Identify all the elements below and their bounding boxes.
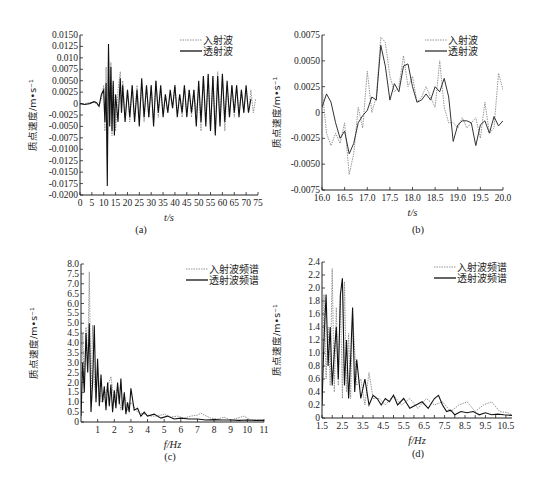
legend-label: 入射波频谱 <box>457 261 507 273</box>
x-axis-title: t/s <box>408 207 418 218</box>
x-tick-label: 7.5 <box>439 421 451 431</box>
x-tick-label: 65 <box>230 198 240 208</box>
x-tick-label: 16.0 <box>314 193 331 203</box>
x-tick-label: 6 <box>178 425 183 435</box>
chart-d-svg: 2.42.22.01.81.61.41.21.00.80.60.40.201.5… <box>268 240 537 489</box>
chart-panel-b: 0.00750.00500.00250-0.0025-0.0050-0.0075… <box>268 0 537 240</box>
y-tick-label: 0 <box>74 417 79 427</box>
chart-d-caption: (d) <box>412 448 425 460</box>
y-tick-label: 0.010 <box>57 53 79 63</box>
x-tick-label: 30 <box>146 198 156 208</box>
legend-label: 透射波 <box>203 45 233 57</box>
x-tick-label: 0 <box>78 198 83 208</box>
y-axis-title: 质点速度/m•s⁻¹ <box>271 304 282 376</box>
x-tick-label: 20.0 <box>495 193 512 203</box>
y-tick-label: 0.4 <box>308 387 320 397</box>
x-tick-label: 60 <box>218 198 228 208</box>
x-tick-label: 5 <box>162 425 167 435</box>
x-tick-label: 16.5 <box>336 193 353 203</box>
y-tick-label: 0.0150 <box>52 30 78 40</box>
legend-label: 入射波频谱 <box>209 263 259 275</box>
x-tick-label: 25 <box>135 198 145 208</box>
y-tick-label: 5.5 <box>67 308 79 318</box>
y-tick-label: 1.0 <box>67 397 79 407</box>
y-tick-label: 1.5 <box>67 387 79 397</box>
y-tick-label: 0 <box>73 99 78 109</box>
x-tick-label: 1 <box>95 425 100 435</box>
y-tick-label: 0.0025 <box>294 82 320 92</box>
x-tick-label: 75 <box>253 198 263 208</box>
legend-label: 透射波 <box>448 45 478 57</box>
y-tick-label: 8.0 <box>67 259 79 269</box>
y-tick-label: 2.0 <box>308 283 320 293</box>
x-tick-label: 18.5 <box>427 193 444 203</box>
chart-b-plot: 0.00750.00500.00250-0.0025-0.0050-0.0075… <box>271 30 512 218</box>
x-tick-label: 40 <box>170 198 180 208</box>
y-tick-label: 3.0 <box>67 358 79 368</box>
y-tick-label: 0.8 <box>308 361 320 371</box>
chart-a-svg: 0.01500.01250.0100.00750.00500.00250-0.0… <box>0 0 268 240</box>
y-tick-label: 0.0050 <box>294 56 320 66</box>
legend-label: 透射波频谱 <box>457 272 507 284</box>
chart-c-caption: (c) <box>164 451 176 463</box>
x-tick-label: 4 <box>145 425 150 435</box>
y-tick-label: 4.5 <box>67 328 79 338</box>
y-tick-label: 6.0 <box>67 299 79 309</box>
y-tick-label: 0 <box>315 108 320 118</box>
x-tick-label: 45 <box>182 198 192 208</box>
y-tick-label: 0.6 <box>308 374 320 384</box>
y-tick-label: 0.0075 <box>294 30 320 40</box>
y-tick-label: 0.0050 <box>52 76 78 86</box>
series-line-transmitted <box>322 45 503 154</box>
x-tick-label: 7 <box>195 425 200 435</box>
y-tick-label: 7.5 <box>67 269 79 279</box>
series-line-transmitted <box>81 323 264 420</box>
x-tick-label: 17.0 <box>359 193 376 203</box>
x-tick-label: 50 <box>194 198 204 208</box>
x-axis-title: f/Hz <box>164 439 182 450</box>
x-tick-label: 3.5 <box>357 421 369 431</box>
chart-b-svg: 0.00750.00500.00250-0.0025-0.0050-0.0075… <box>268 0 537 240</box>
y-tick-label: -0.0100 <box>49 144 79 154</box>
y-tick-label: 2.4 <box>308 257 320 267</box>
x-tick-label: 15 <box>111 198 121 208</box>
y-tick-label: -0.0150 <box>49 167 79 177</box>
y-tick-label: 1.2 <box>308 335 320 345</box>
y-tick-label: 6.5 <box>67 289 79 299</box>
y-tick-label: 2.2 <box>308 270 320 280</box>
chart-panel-a: 0.01500.01250.0100.00750.00500.00250-0.0… <box>0 0 268 240</box>
y-tick-label: 7.0 <box>67 279 79 289</box>
y-tick-label: -0.0025 <box>49 110 79 120</box>
x-tick-label: 10 <box>99 198 109 208</box>
y-tick-label: 4.0 <box>67 338 79 348</box>
x-tick-label: 8 <box>212 425 217 435</box>
y-tick-label: -0.0200 <box>49 190 79 200</box>
chart-c-svg: 8.07.57.06.56.05.55.04.54.03.53.02.52.01… <box>0 240 268 489</box>
legend-label: 透射波频谱 <box>209 274 259 286</box>
x-tick-label: 8.5 <box>459 421 471 431</box>
chart-a-caption: (a) <box>135 224 147 236</box>
x-tick-label: 70 <box>241 198 251 208</box>
x-tick-label: 10.5 <box>498 421 515 431</box>
x-tick-label: 5 <box>89 198 94 208</box>
chart-d-plot: 2.42.22.01.81.61.41.21.00.80.60.40.201.5… <box>271 257 514 446</box>
chart-panel-c: 8.07.57.06.56.05.55.04.54.03.53.02.52.01… <box>0 240 268 489</box>
y-tick-label: -0.0050 <box>49 121 79 131</box>
y-tick-label: -0.0125 <box>49 156 79 166</box>
y-tick-label: 2.5 <box>67 368 79 378</box>
x-tick-label: 9 <box>228 425 233 435</box>
series-line-incident <box>322 269 512 415</box>
x-tick-label: 2.5 <box>336 421 348 431</box>
series-line-transmitted <box>80 44 251 186</box>
y-axis-title: 质点速度/m•s⁻¹ <box>28 307 39 379</box>
y-tick-label: -0.0050 <box>291 159 321 169</box>
y-tick-label: 5.0 <box>67 318 79 328</box>
y-tick-label: -0.0025 <box>291 133 321 143</box>
x-tick-label: 20 <box>123 198 133 208</box>
y-axis-title: 质点速度/m•s⁻¹ <box>27 79 38 151</box>
x-tick-label: 19.5 <box>472 193 489 203</box>
y-tick-label: 3.5 <box>67 348 79 358</box>
x-axis-title: f/Hz <box>408 435 426 446</box>
x-tick-label: 55 <box>206 198 216 208</box>
y-tick-label: 0.5 <box>67 407 79 417</box>
